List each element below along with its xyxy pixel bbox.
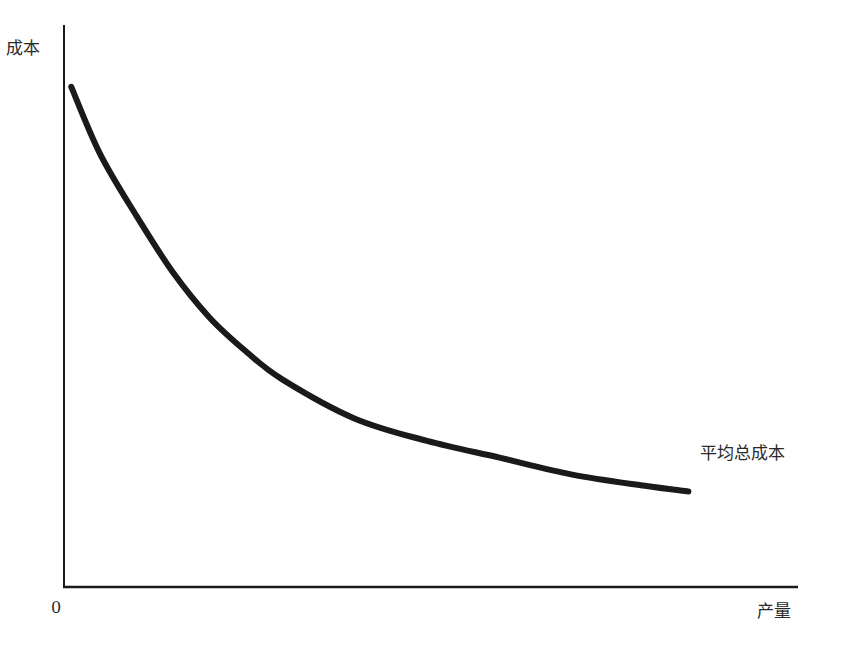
chart-canvas [0, 0, 850, 649]
x-axis-label: 产量 [757, 597, 791, 622]
origin-label: 0 [51, 598, 61, 617]
average-total-cost-curve [71, 87, 688, 492]
y-axis-label: 成本 [6, 34, 40, 59]
curve-label: 平均总成本 [700, 439, 785, 464]
